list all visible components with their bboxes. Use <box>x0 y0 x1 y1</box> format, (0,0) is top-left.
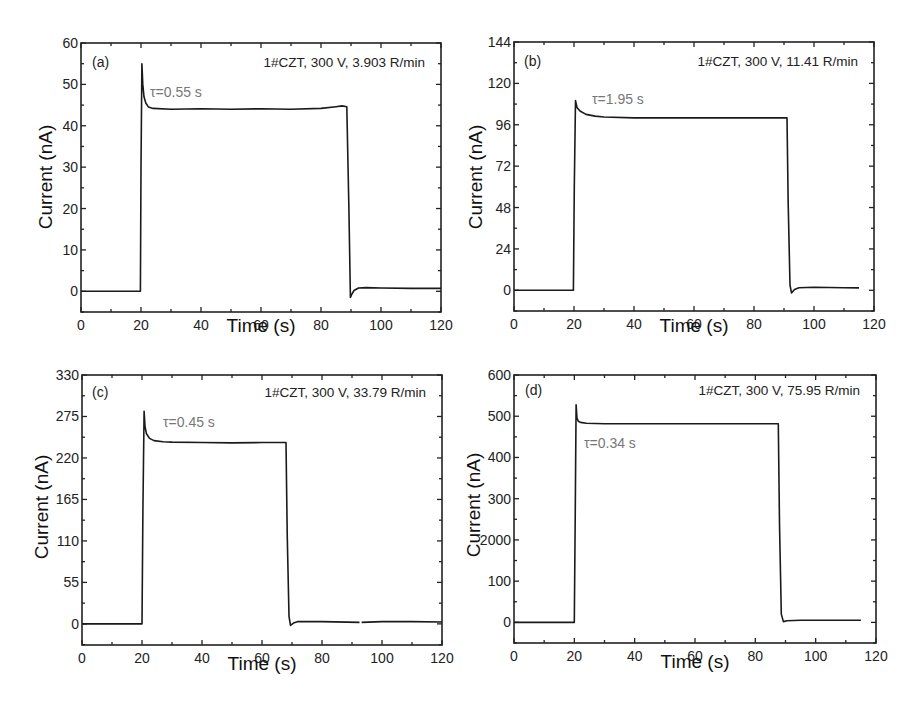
y-tick-label: 220 <box>56 450 80 466</box>
y-tick-label: 0 <box>503 282 511 298</box>
x-axis-label: Time (s) <box>227 315 296 336</box>
y-tick-label: 40 <box>62 118 78 134</box>
chart-panel-d: 02040608010012001002000300400500600Time … <box>462 335 924 680</box>
panel-letter: (d) <box>525 382 542 398</box>
plot-frame <box>514 375 876 643</box>
chart-panel-c: 020406080100120055110165220275330Time (s… <box>0 335 462 680</box>
y-tick-label: 2000 <box>480 532 511 548</box>
y-tick-label: 10 <box>62 242 78 258</box>
y-axis-label: Current (nA) <box>35 125 56 230</box>
x-tick-label: 0 <box>510 316 518 332</box>
y-tick-label: 144 <box>488 34 512 50</box>
y-tick-label: 500 <box>488 408 512 424</box>
x-tick-label: 120 <box>430 650 454 666</box>
y-tick-label: 330 <box>56 367 80 383</box>
x-tick-label: 120 <box>862 316 886 332</box>
chart-panel-b: 020406080100120024487296120144Time (s)Cu… <box>462 0 924 345</box>
y-tick-label: 55 <box>63 574 79 590</box>
y-tick-label: 600 <box>488 367 512 383</box>
plot-frame <box>82 375 442 645</box>
condition-label: 1#CZT, 300 V, 75.95 R/min <box>698 383 860 398</box>
current-trace <box>514 405 861 623</box>
y-tick-label: 0 <box>503 614 511 630</box>
y-axis-label: Current (nA) <box>463 453 484 558</box>
y-tick-label: 24 <box>495 241 511 257</box>
y-tick-label: 110 <box>57 533 80 549</box>
x-tick-label: 20 <box>134 650 150 666</box>
y-tick-label: 20 <box>62 201 78 217</box>
chart-svg-d: 02040608010012001002000300400500600Time … <box>462 335 924 680</box>
x-tick-label: 0 <box>78 650 86 666</box>
plot-frame <box>81 43 441 312</box>
x-tick-label: 40 <box>194 650 210 666</box>
plot-frame <box>514 42 874 311</box>
y-tick-label: 165 <box>56 491 80 507</box>
time-constant-label: τ=1.95 s <box>592 91 644 107</box>
y-tick-label: 120 <box>488 75 512 91</box>
x-tick-label: 100 <box>370 650 394 666</box>
current-trace <box>81 64 441 298</box>
y-tick-label: 30 <box>62 159 78 175</box>
condition-label: 1#CZT, 300 V, 33.79 R/min <box>264 385 426 400</box>
x-tick-label: 20 <box>567 648 583 664</box>
y-tick-label: 275 <box>56 408 80 424</box>
x-tick-label: 80 <box>313 317 329 333</box>
time-constant-label: τ=0.45 s <box>163 414 215 430</box>
y-tick-label: 96 <box>495 117 511 133</box>
y-tick-label: 60 <box>62 35 78 51</box>
chart-svg-c: 020406080100120055110165220275330Time (s… <box>0 335 462 680</box>
time-constant-label: τ=0.55 s <box>150 84 202 100</box>
x-tick-label: 20 <box>566 316 582 332</box>
x-tick-label: 100 <box>804 648 828 664</box>
x-tick-label: 120 <box>429 317 453 333</box>
x-tick-label: 120 <box>864 648 888 664</box>
x-tick-label: 40 <box>627 648 643 664</box>
y-tick-label: 48 <box>495 200 511 216</box>
chart-svg-b: 020406080100120024487296120144Time (s)Cu… <box>462 0 924 345</box>
x-axis-label: Time (s) <box>660 315 729 336</box>
y-tick-label: 0 <box>71 616 79 632</box>
current-trace <box>82 411 442 625</box>
y-axis-label: Current (nA) <box>465 125 486 230</box>
chart-panel-a: 0204060801001200102030405060Time (s)Curr… <box>0 0 462 345</box>
y-tick-label: 400 <box>488 449 512 465</box>
y-tick-label: 50 <box>62 76 78 92</box>
x-tick-label: 80 <box>314 650 330 666</box>
current-trace <box>514 101 859 293</box>
panel-letter: (c) <box>92 384 108 400</box>
x-tick-label: 0 <box>510 648 518 664</box>
condition-label: 1#CZT, 300 V, 11.41 R/min <box>697 54 858 69</box>
y-tick-label: 0 <box>70 283 78 299</box>
x-tick-label: 80 <box>748 648 764 664</box>
x-tick-label: 80 <box>746 316 762 332</box>
y-axis-label: Current (nA) <box>31 455 52 560</box>
y-tick-label: 72 <box>495 158 511 174</box>
panel-letter: (a) <box>92 54 109 70</box>
panel-letter: (b) <box>524 53 541 69</box>
x-tick-label: 100 <box>369 317 393 333</box>
time-constant-label: τ=0.34 s <box>584 435 636 451</box>
x-tick-label: 0 <box>77 317 85 333</box>
chart-svg-a: 0204060801001200102030405060Time (s)Curr… <box>0 0 462 345</box>
x-tick-label: 40 <box>626 316 642 332</box>
x-axis-label: Time (s) <box>228 653 297 674</box>
x-tick-label: 40 <box>193 317 209 333</box>
y-tick-label: 100 <box>488 573 512 589</box>
x-axis-label: Time (s) <box>661 651 730 672</box>
condition-label: 1#CZT, 300 V, 3.903 R/min <box>263 55 425 70</box>
x-tick-label: 100 <box>802 316 826 332</box>
x-tick-label: 20 <box>133 317 149 333</box>
y-tick-label: 300 <box>488 491 512 507</box>
